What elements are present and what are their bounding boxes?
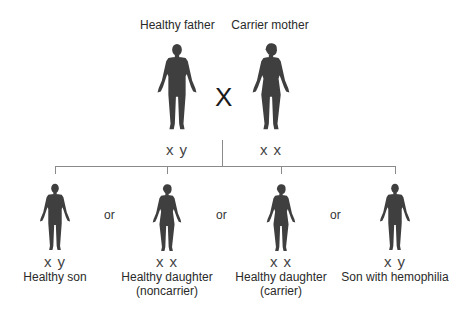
carrier-daughter-figure-icon — [260, 180, 302, 255]
hemophilia-son-figure-icon — [374, 178, 416, 255]
offspring-3-sublabel: (carrier) — [231, 284, 331, 298]
offspring-2-label: Healthy daughter — [117, 270, 217, 284]
drop-line-1 — [55, 166, 56, 174]
sibship-line — [55, 166, 396, 167]
drop-line-2 — [167, 166, 168, 174]
offspring-1-label: Healthy son — [15, 270, 95, 284]
drop-line-4 — [395, 166, 396, 174]
drop-line-3 — [281, 166, 282, 174]
father-label: Healthy father — [140, 18, 210, 32]
offspring-2-genotype: x x — [147, 253, 187, 270]
offspring-3-genotype: x x — [261, 253, 301, 270]
mother-figure-icon — [244, 34, 298, 138]
or-separator-3: or — [330, 208, 341, 222]
offspring-3-label: Healthy daughter — [231, 270, 331, 284]
descent-line — [222, 140, 223, 167]
offspring-4-label: Son with hemophilia — [340, 270, 450, 284]
cross-symbol: X — [215, 82, 232, 113]
offspring-4-genotype: x y — [375, 253, 415, 270]
father-genotype: x y — [157, 141, 197, 158]
or-separator-1: or — [104, 208, 115, 222]
offspring-2-sublabel: (noncarrier) — [117, 284, 217, 298]
healthy-son-figure-icon — [34, 178, 76, 255]
noncarrier-daughter-figure-icon — [146, 180, 188, 255]
father-figure-icon — [150, 34, 204, 138]
mother-label: Carrier mother — [230, 18, 310, 32]
offspring-1-genotype: x y — [35, 253, 75, 270]
or-separator-2: or — [216, 208, 227, 222]
mother-genotype: x x — [251, 141, 291, 158]
